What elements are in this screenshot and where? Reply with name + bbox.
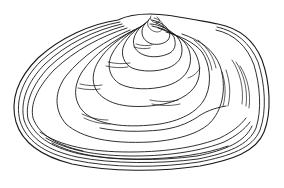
shell-growth-rings	[57, 16, 223, 142]
shell-drawing	[0, 0, 284, 188]
shell-outer-margin	[14, 14, 269, 170]
shell-striations	[78, 44, 200, 124]
shell-ventral-bands	[40, 106, 250, 159]
shell-illustration	[0, 0, 284, 188]
